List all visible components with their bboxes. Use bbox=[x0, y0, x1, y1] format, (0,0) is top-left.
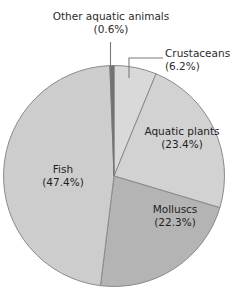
slice-label-aquatic-plants-percent: (23.4%) bbox=[126, 138, 238, 151]
slice-label-fish-percent: (47.4%) bbox=[28, 176, 98, 189]
slice-label-molluscs: Molluscs (22.3%) bbox=[133, 203, 217, 228]
slice-label-fish-name: Fish bbox=[28, 163, 98, 176]
slice-callout-other-aquatic-animals-name: Other aquatic animals bbox=[27, 10, 195, 23]
slice-label-aquatic-plants: Aquatic plants (23.4%) bbox=[126, 125, 238, 150]
slice-label-aquatic-plants-name: Aquatic plants bbox=[126, 125, 238, 138]
slice-callout-crustaceans-name: Crustaceans bbox=[165, 47, 247, 60]
pie-chart: Other aquatic animals (0.6%) Crustaceans… bbox=[0, 0, 247, 291]
slice-label-molluscs-name: Molluscs bbox=[133, 203, 217, 216]
slice-label-fish: Fish (47.4%) bbox=[28, 163, 98, 188]
slice-label-molluscs-percent: (22.3%) bbox=[133, 216, 217, 229]
slice-callout-crustaceans: Crustaceans (6.2%) bbox=[165, 47, 247, 72]
slice-callout-crustaceans-percent: (6.2%) bbox=[165, 60, 247, 73]
slice-callout-other-aquatic-animals: Other aquatic animals (0.6%) bbox=[27, 10, 195, 35]
slice-callout-other-aquatic-animals-percent: (0.6%) bbox=[27, 23, 195, 36]
